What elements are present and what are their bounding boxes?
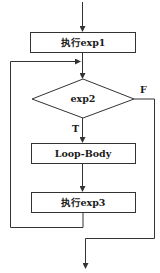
true-label: T: [72, 123, 79, 134]
init-node: 执行exp1: [31, 33, 136, 53]
update-label: 执行exp3: [61, 197, 106, 208]
body-label: Loop-Body: [55, 148, 112, 159]
condition-node: exp2: [32, 79, 134, 118]
flowchart: 执行exp1 exp2 F T Loop-Body 执行exp3: [0, 0, 160, 273]
body-node: Loop-Body: [32, 144, 136, 164]
condition-label: exp2: [71, 93, 96, 104]
update-node: 执行exp3: [32, 193, 136, 213]
false-label: F: [140, 84, 147, 95]
init-label: 执行exp1: [61, 37, 106, 48]
false-branch-arrow: [86, 99, 155, 268]
